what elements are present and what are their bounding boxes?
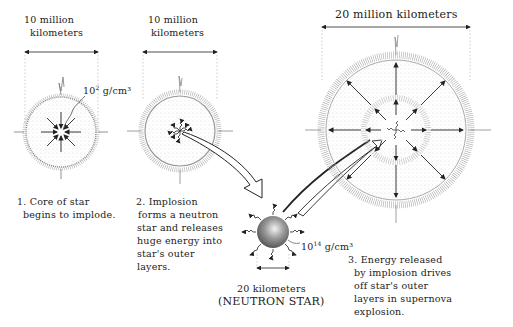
stage3-caption-line5: explosion. bbox=[354, 306, 405, 319]
stage1-density-label: 102 g/cm³ bbox=[83, 82, 131, 98]
density-exponent: 14 bbox=[314, 240, 322, 247]
neutron-star-scale-label: 20 kilometers bbox=[237, 283, 306, 296]
stage2-caption-line4: huge energy into bbox=[137, 235, 222, 248]
stage2-scale-label-line1: 10 million bbox=[148, 14, 198, 27]
density-exponent: 2 bbox=[96, 84, 100, 91]
stage3-caption-line3: off star's outer bbox=[354, 280, 428, 293]
density-base: 10 bbox=[301, 241, 314, 252]
stage3-caption-line2: by implosion drives bbox=[354, 267, 451, 280]
density-unit: g/cm³ bbox=[325, 241, 353, 252]
stage1-caption-line1: 1. Core of star bbox=[17, 196, 89, 209]
stage2-caption-line5: star's outer bbox=[137, 248, 195, 261]
stage3-caption-line1: 3. Energy released bbox=[348, 254, 442, 267]
density-unit: g/cm³ bbox=[103, 85, 131, 96]
neutron-star bbox=[242, 204, 304, 268]
stage3-scale-label: 20 million kilometers bbox=[335, 9, 458, 22]
stage2-scale-label-line2: kilometers bbox=[151, 27, 204, 40]
stage3-caption-line4: layers in supernova bbox=[354, 293, 452, 306]
stage1-scale-label-line2: kilometers bbox=[30, 27, 83, 40]
stage2-star-implosion bbox=[127, 76, 233, 184]
neutron-star-density-label: 1014 g/cm³ bbox=[301, 238, 353, 254]
stage1-caption-line2: begins to implode. bbox=[23, 209, 116, 222]
stage2-dimension bbox=[143, 52, 217, 100]
stage1-scale-label-line1: 10 million bbox=[24, 14, 74, 27]
density-base: 10 bbox=[83, 85, 96, 96]
stage3-star-supernova bbox=[305, 35, 491, 223]
neutron-star-name-label: (NEUTRON STAR) bbox=[218, 296, 325, 309]
stage2-caption-line2: forms a neutron bbox=[138, 209, 218, 222]
stage2-caption-line6: layers. bbox=[137, 261, 171, 274]
stage2-caption-line3: star and releases bbox=[137, 222, 223, 235]
stage2-caption-line1: 2. Implosion bbox=[136, 196, 198, 209]
